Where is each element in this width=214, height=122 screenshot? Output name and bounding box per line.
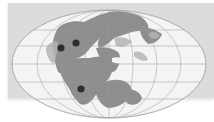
location-marker[interactable] bbox=[57, 44, 64, 51]
world-map bbox=[0, 0, 214, 122]
location-marker[interactable] bbox=[77, 85, 84, 92]
location-marker[interactable] bbox=[72, 39, 79, 46]
